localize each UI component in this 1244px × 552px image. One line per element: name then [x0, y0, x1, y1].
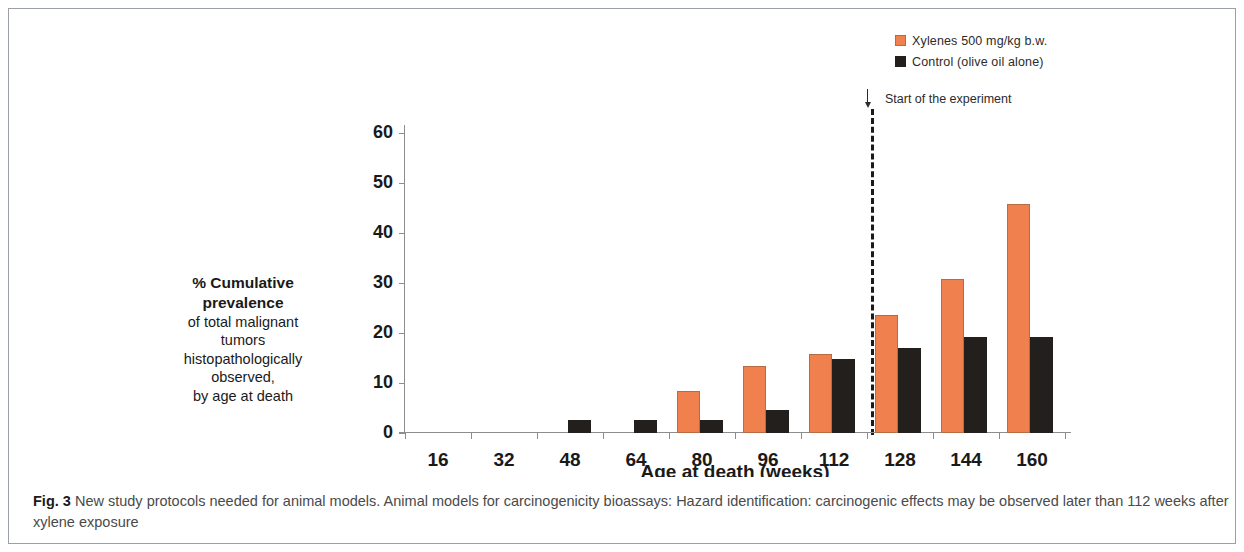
- figure-frame: Xylenes 500 mg/kg b.w. Control (olive oi…: [8, 8, 1236, 544]
- bar-group: 80: [669, 133, 735, 433]
- x-axis-tick: [999, 433, 1000, 439]
- bar-group: 64: [603, 133, 669, 433]
- figure-caption: Fig. 3 New study protocols needed for an…: [33, 491, 1229, 532]
- bar-group: 96: [735, 133, 801, 433]
- y-axis-title: % Cumulativeprevalenceof total malignant…: [127, 273, 359, 405]
- x-axis-tick: [537, 433, 538, 439]
- bar-group: 48: [537, 133, 603, 433]
- legend-swatch-icon-xylenes: [895, 35, 906, 46]
- bar-control: [1030, 337, 1053, 433]
- start-of-experiment-label: Start of the experiment: [885, 92, 1011, 106]
- chart-plot-region: Xylenes 500 mg/kg b.w. Control (olive oi…: [9, 9, 1235, 477]
- bar-group: 16: [405, 133, 471, 433]
- x-axis-tick: [933, 433, 934, 439]
- bar-xylenes: [941, 279, 964, 434]
- x-axis-title: Age at death (weeks): [405, 461, 1065, 477]
- bar-control: [568, 420, 591, 433]
- y-axis-title-line: tumors: [127, 331, 359, 350]
- legend-item-xylenes: Xylenes 500 mg/kg b.w.: [895, 33, 1047, 48]
- x-axis-tick: [801, 433, 802, 439]
- bar-control: [700, 420, 723, 433]
- y-axis-tick-label: 20: [373, 322, 393, 343]
- y-axis-title-line: histopathologically: [127, 350, 359, 369]
- bar-control: [832, 359, 855, 434]
- y-axis-title-line: by age at death: [127, 387, 359, 406]
- figure-caption-text: New study protocols needed for animal mo…: [33, 493, 1229, 530]
- bar-series-container: 163248648096112128144160: [405, 133, 1065, 433]
- x-axis-tick: [1065, 433, 1066, 439]
- legend-item-control: Control (olive oil alone): [895, 54, 1047, 69]
- x-axis-tick: [669, 433, 670, 439]
- y-axis-tick-label: 50: [373, 172, 393, 193]
- y-axis-tick-label: 60: [373, 122, 393, 143]
- bar-xylenes: [1007, 204, 1030, 434]
- y-axis-tick-label: 10: [373, 372, 393, 393]
- chart-axes: 0102030405060 163248648096112128144160: [405, 133, 1065, 433]
- y-axis-title-line: of total malignant: [127, 313, 359, 332]
- down-arrow-icon: [861, 89, 875, 109]
- x-axis-tick: [471, 433, 472, 439]
- bar-group: 32: [471, 133, 537, 433]
- bar-xylenes: [875, 315, 898, 433]
- chart-legend: Xylenes 500 mg/kg b.w. Control (olive oi…: [895, 33, 1047, 75]
- legend-label-control: Control (olive oil alone): [912, 55, 1044, 69]
- bar-group: 144: [933, 133, 999, 433]
- y-axis-title-line: observed,: [127, 368, 359, 387]
- bar-group: 128: [867, 133, 933, 433]
- bar-group: 160: [999, 133, 1065, 433]
- y-axis-title-line: % Cumulative: [127, 273, 359, 293]
- bar-control: [898, 348, 921, 433]
- bar-control: [766, 410, 789, 434]
- start-of-experiment-annotation: Start of the experiment: [861, 89, 1011, 109]
- bar-group: 112: [801, 133, 867, 433]
- x-axis-tick: [735, 433, 736, 439]
- y-axis-tick-label: 0: [383, 422, 393, 443]
- x-axis-tick: [603, 433, 604, 439]
- bar-xylenes: [809, 354, 832, 434]
- y-axis-tick-label: 40: [373, 222, 393, 243]
- bar-control: [634, 420, 657, 433]
- x-axis-tick: [405, 433, 406, 439]
- y-axis-title-line: prevalence: [127, 293, 359, 313]
- bar-xylenes: [743, 366, 766, 433]
- legend-swatch-icon-control: [895, 56, 906, 67]
- x-axis-tick: [867, 433, 868, 439]
- bar-control: [964, 337, 987, 433]
- bar-xylenes: [677, 391, 700, 433]
- legend-label-xylenes: Xylenes 500 mg/kg b.w.: [912, 34, 1047, 48]
- figure-number: Fig. 3: [33, 493, 71, 509]
- y-axis-tick-label: 30: [373, 272, 393, 293]
